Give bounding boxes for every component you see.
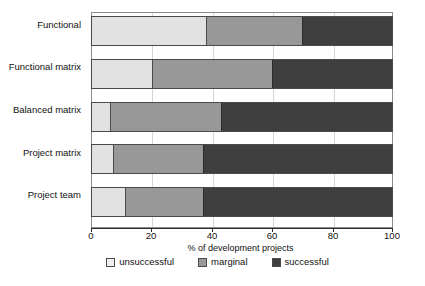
bars-layer [91,12,393,228]
legend-item-unsuccessful[interactable]: unsuccessful [106,257,174,267]
legend-item-marginal[interactable]: marginal [198,257,247,267]
bar-row [91,102,393,132]
legend-label: unsuccessful [119,257,174,267]
bar-segment-marginal [206,17,302,45]
bar-segment-successful [221,103,392,131]
bar-row [91,59,393,89]
legend-swatch-icon [272,258,281,267]
bar-balanced-matrix[interactable] [91,102,393,132]
bar-row [91,144,393,174]
bar-project-team[interactable] [91,187,393,217]
bar-segment-unsuccessful [92,60,152,88]
bar-functional-matrix[interactable] [91,59,393,89]
legend-swatch-icon [106,258,115,267]
bar-segment-marginal [110,103,221,131]
bar-segment-successful [203,188,392,216]
bar-segment-unsuccessful [92,188,125,216]
y-axis-label-2: Balanced matrix [0,105,81,115]
x-axis-tick-label-40: 40 [207,231,218,241]
legend-item-successful[interactable]: successful [272,257,329,267]
y-axis-category-labels: Functional Functional matrix Balanced ma… [0,12,86,228]
legend-label: successful [285,257,329,267]
bar-segment-marginal [113,145,203,173]
x-axis-tick-label-100: 100 [384,231,400,241]
bar-row [91,187,393,217]
legend-swatch-icon [198,258,207,267]
bar-segment-unsuccessful [92,17,206,45]
bar-segment-successful [272,60,392,88]
bar-row [91,16,393,46]
y-axis-label-4: Project team [0,190,81,200]
x-axis-title: % of development projects [0,243,425,253]
bar-segment-marginal [152,60,272,88]
bar-segment-marginal [125,188,203,216]
y-axis-label-1: Functional matrix [0,62,81,72]
bar-segment-successful [302,17,392,45]
bar-project-matrix[interactable] [91,144,393,174]
bar-segment-successful [203,145,392,173]
x-axis-tick-label-20: 20 [146,231,157,241]
x-axis-tick-label-80: 80 [328,231,339,241]
stacked-bar-chart: Functional Functional matrix Balanced ma… [0,0,425,286]
y-axis-label-3: Project matrix [0,148,81,158]
y-axis-label-0: Functional [0,20,81,30]
legend-label: marginal [211,257,247,267]
chart-legend: unsuccessful marginal successful [0,257,425,267]
bar-segment-unsuccessful [92,145,113,173]
x-axis-line [91,228,393,229]
x-axis-tick-label-60: 60 [267,231,278,241]
x-axis-tick-label-0: 0 [88,231,93,241]
bar-functional[interactable] [91,16,393,46]
bar-segment-unsuccessful [92,103,110,131]
